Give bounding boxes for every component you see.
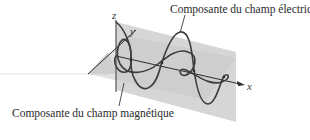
z-axis-label: z (112, 10, 116, 21)
node-dot (130, 59, 133, 62)
electric-field-label: Composante du champ électrique (170, 4, 310, 16)
y-axis-label: y (130, 26, 135, 37)
magnetic-field-label: Composante du champ magnétique (12, 108, 174, 120)
node-dot (223, 76, 226, 79)
em-wave-diagram: Composante du champ électrique Composant… (0, 0, 310, 140)
electric-label-leader (180, 15, 185, 33)
node-dot (161, 62, 164, 65)
x-axis-label: x (247, 81, 252, 92)
node-dot (193, 70, 196, 73)
x-axis-arrowhead (237, 81, 245, 86)
